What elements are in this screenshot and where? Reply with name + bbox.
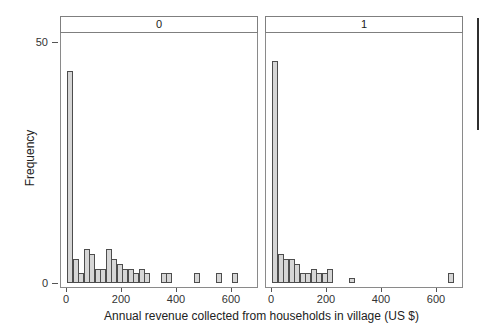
x-tick-label: 600 xyxy=(427,293,445,305)
x-axis-tick xyxy=(66,288,67,292)
histogram-bar xyxy=(67,71,73,283)
histogram-bar xyxy=(349,278,355,283)
x-tick-label: 400 xyxy=(167,293,185,305)
x-axis-tick xyxy=(381,288,382,292)
x-axis-tick xyxy=(231,288,232,292)
y-tick-label-50: 50 xyxy=(26,36,48,48)
histogram-bar xyxy=(166,273,172,283)
x-axis-tick xyxy=(271,288,272,292)
facet-strip-label-1: 1 xyxy=(361,18,367,30)
faceted-histogram-figure: Frequency 50 0 0 0200400600 1 0200400600… xyxy=(0,0,483,335)
histogram-bar xyxy=(216,273,222,283)
y-axis-tick-0 xyxy=(52,283,58,284)
histogram-panel-1 xyxy=(265,33,463,288)
y-axis-title: Frequency xyxy=(23,98,37,218)
histogram-panel-0 xyxy=(60,33,258,288)
y-tick-label-0: 0 xyxy=(26,277,48,289)
x-axis-title: Annual revenue collected from households… xyxy=(60,309,463,323)
histogram-bar xyxy=(272,61,278,283)
histogram-bar xyxy=(232,273,238,283)
x-tick-label: 400 xyxy=(372,293,390,305)
histogram-bar xyxy=(448,273,454,283)
window-edge-artifact-line xyxy=(477,18,479,130)
x-axis-tick xyxy=(176,288,177,292)
facet-strip-1: 1 xyxy=(265,16,463,33)
facet-panel-0: 0 0200400600 xyxy=(60,16,258,316)
x-tick-label: 200 xyxy=(317,293,335,305)
x-tick-label: 600 xyxy=(222,293,240,305)
x-axis-tick xyxy=(326,288,327,292)
x-tick-label: 200 xyxy=(112,293,130,305)
facet-strip-label-0: 0 xyxy=(156,18,162,30)
facet-panel-1: 1 0200400600 xyxy=(265,16,463,316)
x-tick-label: 0 xyxy=(63,293,69,305)
x-tick-label: 0 xyxy=(268,293,274,305)
histogram-bar xyxy=(194,273,200,283)
histogram-bar xyxy=(327,269,333,284)
facet-strip-0: 0 xyxy=(60,16,258,33)
y-axis-tick-50 xyxy=(52,42,58,43)
histogram-bar xyxy=(144,273,150,283)
x-axis-tick xyxy=(121,288,122,292)
x-axis-tick xyxy=(436,288,437,292)
